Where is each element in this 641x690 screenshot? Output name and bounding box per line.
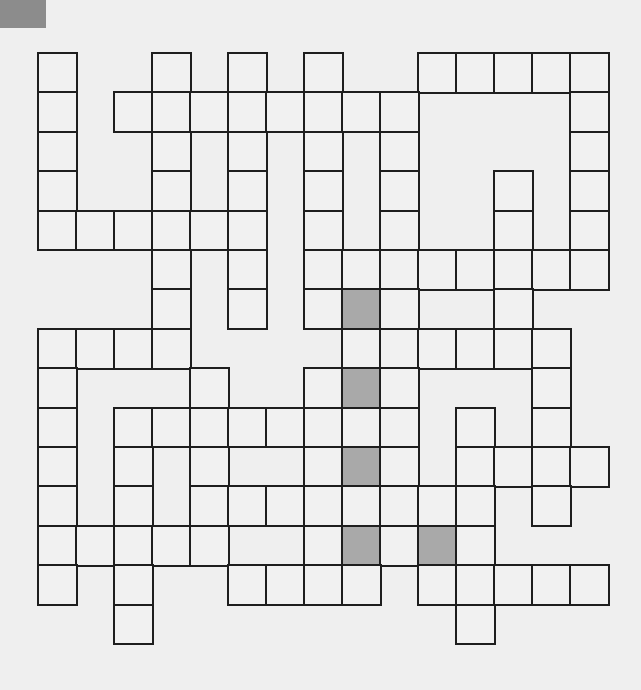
crossword-cell[interactable] [417,249,458,291]
crossword-cell[interactable] [379,288,420,330]
crossword-cell[interactable] [303,525,344,567]
crossword-cell[interactable] [113,525,154,567]
crossword-cell[interactable] [493,52,534,94]
crossword-cell-shaded[interactable] [341,288,382,330]
crossword-cell[interactable] [151,407,192,449]
crossword-cell[interactable] [455,328,496,370]
crossword-cell[interactable] [379,446,420,488]
crossword-cell[interactable] [303,288,344,330]
crossword-cell[interactable] [379,249,420,291]
crossword-cell[interactable] [493,288,534,330]
crossword-cell[interactable] [227,170,268,212]
crossword-cell[interactable] [37,525,78,567]
crossword-cell[interactable] [379,131,420,173]
crossword-cell[interactable] [303,367,344,409]
crossword-cell[interactable] [341,249,382,291]
crossword-cell[interactable] [531,485,572,527]
crossword-cell[interactable] [379,170,420,212]
crossword-cell[interactable] [113,485,154,527]
crossword-cell[interactable] [227,210,268,252]
crossword-cell[interactable] [379,210,420,252]
crossword-cell[interactable] [379,328,420,370]
crossword-cell[interactable] [151,525,192,567]
crossword-cell[interactable] [417,485,458,527]
crossword-cell[interactable] [531,367,572,409]
crossword-cell[interactable] [189,210,230,252]
crossword-cell[interactable] [37,407,78,449]
crossword-cell[interactable] [531,446,572,488]
crossword-cell[interactable] [37,131,78,173]
crossword-cell[interactable] [37,564,78,606]
crossword-cell[interactable] [531,564,572,606]
crossword-cell[interactable] [189,91,230,133]
crossword-cell[interactable] [227,91,268,133]
crossword-cell[interactable] [37,52,78,94]
crossword-cell[interactable] [37,170,78,212]
crossword-cell[interactable] [75,328,116,370]
crossword-cell[interactable] [531,249,572,291]
crossword-cell[interactable] [113,91,154,133]
crossword-cell[interactable] [341,328,382,370]
crossword-cell[interactable] [151,328,192,370]
crossword-cell[interactable] [569,91,610,133]
crossword-cell[interactable] [417,328,458,370]
crossword-cell[interactable] [303,170,344,212]
crossword-cell[interactable] [113,564,154,606]
crossword-cell[interactable] [455,446,496,488]
crossword-cell-shaded[interactable] [417,525,458,567]
crossword-cell[interactable] [455,249,496,291]
crossword-cell[interactable] [455,52,496,94]
crossword-cell[interactable] [493,210,534,252]
crossword-cell[interactable] [569,52,610,94]
crossword-cell[interactable] [113,407,154,449]
crossword-cell[interactable] [569,564,610,606]
crossword-cell[interactable] [417,52,458,94]
crossword-cell[interactable] [417,564,458,606]
crossword-cell[interactable] [113,328,154,370]
crossword-cell[interactable] [227,52,268,94]
crossword-cell[interactable] [37,91,78,133]
crossword-cell[interactable] [37,367,78,409]
crossword-cell[interactable] [303,131,344,173]
crossword-cell[interactable] [227,564,268,606]
crossword-cell[interactable] [113,446,154,488]
crossword-cell[interactable] [151,170,192,212]
crossword-cell[interactable] [531,328,572,370]
crossword-cell[interactable] [303,564,344,606]
crossword-cell-shaded[interactable] [341,367,382,409]
crossword-cell[interactable] [569,446,610,488]
crossword-cell[interactable] [379,91,420,133]
crossword-cell[interactable] [151,131,192,173]
crossword-cell[interactable] [37,328,78,370]
crossword-cell[interactable] [303,210,344,252]
crossword-cell[interactable] [455,525,496,567]
crossword-cell[interactable] [303,249,344,291]
crossword-cell[interactable] [265,91,306,133]
crossword-cell[interactable] [341,407,382,449]
crossword-cell[interactable] [379,407,420,449]
crossword-cell[interactable] [569,131,610,173]
crossword-cell[interactable] [303,91,344,133]
crossword-cell[interactable] [493,328,534,370]
crossword-cell[interactable] [379,525,420,567]
crossword-cell[interactable] [75,210,116,252]
crossword-cell[interactable] [303,485,344,527]
crossword-cell[interactable] [227,131,268,173]
crossword-cell[interactable] [379,367,420,409]
crossword-cell[interactable] [189,446,230,488]
crossword-cell[interactable] [151,210,192,252]
crossword-cell-shaded[interactable] [341,525,382,567]
crossword-cell[interactable] [227,407,268,449]
crossword-cell[interactable] [493,249,534,291]
crossword-cell[interactable] [493,564,534,606]
crossword-cell[interactable] [455,564,496,606]
crossword-cell[interactable] [493,170,534,212]
crossword-cell[interactable] [151,249,192,291]
crossword-cell[interactable] [189,525,230,567]
crossword-cell[interactable] [341,91,382,133]
crossword-cell[interactable] [151,52,192,94]
crossword-cell[interactable] [75,525,116,567]
crossword-cell[interactable] [455,407,496,449]
crossword-cell[interactable] [227,485,268,527]
crossword-cell[interactable] [493,446,534,488]
